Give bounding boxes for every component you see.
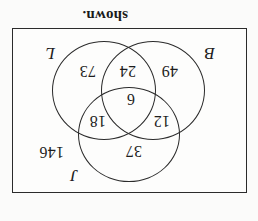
set-label-b: B	[205, 43, 215, 63]
set-label-j: J	[70, 165, 78, 185]
page-caption: shown.	[82, 7, 128, 24]
rotated-page-content: 37 12 18 6 49 24 73 146 J B L shown.	[0, 0, 258, 221]
region-value-j-and-l: 18	[89, 112, 106, 130]
region-value-b-only: 49	[161, 62, 178, 80]
venn-diagram-frame: 37 12 18 6 49 24 73 146 J B L	[12, 28, 247, 193]
set-label-l: L	[46, 43, 55, 63]
region-value-j-only: 37	[125, 142, 142, 160]
scanned-page: 37 12 18 6 49 24 73 146 J B L shown.	[0, 0, 258, 221]
region-value-b-and-l: 24	[119, 62, 136, 80]
region-value-j-and-b-and-l: 6	[127, 90, 135, 108]
region-value-l-only: 73	[79, 62, 96, 80]
region-value-outside: 146	[39, 143, 64, 161]
region-value-j-and-b: 12	[153, 112, 170, 130]
